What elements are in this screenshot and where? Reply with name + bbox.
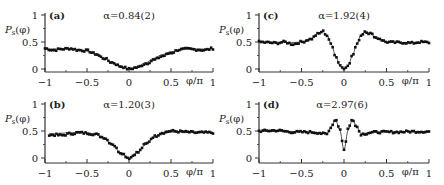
data-point <box>105 57 108 60</box>
x-tick-label: −0.5 <box>75 77 99 88</box>
x-tick-label: −0.5 <box>289 77 313 88</box>
data-point <box>371 33 374 36</box>
data-point <box>341 140 344 143</box>
x-axis-label: φ/π <box>186 75 203 86</box>
data-point <box>87 48 90 51</box>
data-points <box>258 29 431 70</box>
y-tick-label: 0.5 <box>236 37 252 48</box>
x-tick-label: 1 <box>210 168 216 179</box>
y-tick-label: 1 <box>246 99 252 110</box>
y-axis-label: Ps(φ) <box>218 113 244 126</box>
data-point <box>314 34 317 37</box>
y-tick-label: 1 <box>246 10 252 21</box>
panel-label: (b) <box>49 99 65 110</box>
panel-label: (a) <box>49 10 65 21</box>
data-point <box>354 46 357 49</box>
x-tick-label: −0.5 <box>289 168 313 179</box>
data-point <box>137 151 140 154</box>
x-tick-label: 0 <box>126 168 132 179</box>
panel-d: 00.51−1−0.500.51φ/πPs(φ)(d)α=2.97(6) <box>218 99 432 180</box>
data-point <box>337 125 340 128</box>
data-point <box>352 120 355 123</box>
data-point <box>346 65 349 68</box>
data-point <box>97 133 100 136</box>
panel-a: 00.51−1−0.500.51φ/πPs(φ)(a)α=0.84(2) <box>4 10 216 89</box>
y-axis-label: Ps(φ) <box>4 24 30 37</box>
x-tick-label: −1 <box>252 77 267 88</box>
data-point <box>212 132 215 135</box>
x-tick-label: 0.5 <box>379 77 395 88</box>
data-point <box>356 126 359 129</box>
alpha-annotation: α=1.20(3) <box>103 99 155 110</box>
data-point <box>212 48 215 51</box>
data-point <box>348 62 351 65</box>
fit-curve <box>49 132 213 158</box>
data-points <box>258 119 431 151</box>
panel-label: (c) <box>263 10 279 21</box>
data-point <box>322 29 325 32</box>
data-point <box>123 153 126 156</box>
y-tick-label: 0 <box>32 64 38 75</box>
x-tick-label: −0.5 <box>75 168 99 179</box>
data-point <box>328 38 331 41</box>
data-point <box>115 147 118 150</box>
data-point <box>428 130 431 133</box>
x-tick-label: 1 <box>426 168 432 179</box>
data-point <box>362 33 365 36</box>
data-point <box>326 35 329 38</box>
data-point <box>335 56 338 59</box>
data-point <box>148 140 151 143</box>
panel-c: 00.51−1−0.500.51φ/πPs(φ)(c)α=1.92(4) <box>218 10 432 89</box>
data-point <box>337 61 340 64</box>
data-point <box>331 46 334 49</box>
x-tick-label: −1 <box>38 77 53 88</box>
x-axis-label: φ/π <box>402 166 419 177</box>
data-point <box>339 128 342 131</box>
alpha-annotation: α=2.97(6) <box>316 99 368 110</box>
y-axis-label: Ps(φ) <box>218 24 244 37</box>
panel-label: (d) <box>263 99 279 110</box>
data-point <box>329 42 332 45</box>
x-tick-label: 0 <box>126 77 132 88</box>
data-point <box>346 127 349 130</box>
data-point <box>352 53 355 56</box>
data-points <box>44 46 215 70</box>
x-tick-label: 1 <box>426 77 432 88</box>
data-point <box>311 38 314 41</box>
y-tick-label: 1 <box>32 99 38 110</box>
x-tick-label: 0.5 <box>163 77 179 88</box>
x-tick-label: −1 <box>252 168 267 179</box>
y-tick-label: 0.5 <box>22 126 38 137</box>
y-tick-label: 0.5 <box>22 37 38 48</box>
data-point <box>348 124 351 127</box>
alpha-annotation: α=0.84(2) <box>103 10 155 21</box>
x-tick-label: 0.5 <box>379 168 395 179</box>
y-tick-label: 0.5 <box>236 126 252 137</box>
panel-b: 00.51−1−0.500.51φ/πPs(φ)(b)α=1.20(3) <box>4 99 216 180</box>
y-tick-label: 0 <box>32 153 38 164</box>
data-point <box>106 139 109 142</box>
y-tick-label: 1 <box>32 10 38 21</box>
fit-curve <box>259 120 429 150</box>
data-point <box>345 140 348 143</box>
data-point <box>356 42 359 45</box>
fit-curve <box>259 32 429 69</box>
data-point <box>358 39 361 42</box>
data-points <box>48 129 214 160</box>
fit-curve <box>45 49 213 69</box>
x-axis-label: φ/π <box>186 166 203 177</box>
data-point <box>326 133 329 136</box>
data-point <box>297 42 300 45</box>
data-point <box>328 130 331 133</box>
x-tick-label: −1 <box>38 168 53 179</box>
data-point <box>133 154 136 157</box>
data-point <box>335 119 338 122</box>
data-point <box>358 130 361 133</box>
data-point <box>141 147 144 150</box>
x-tick-label: 0.5 <box>163 168 179 179</box>
data-point <box>329 127 332 130</box>
x-axis-label: φ/π <box>402 75 419 86</box>
x-tick-label: 0 <box>341 168 347 179</box>
data-point <box>343 148 346 151</box>
data-point <box>331 124 334 127</box>
